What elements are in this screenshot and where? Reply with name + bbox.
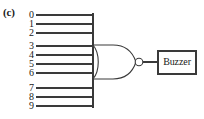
input-label-6: 6 xyxy=(22,68,34,78)
nor-gate xyxy=(93,45,136,79)
part-label: (c) xyxy=(3,7,15,18)
figure-canvas: (c) 0 1 2 3 4 5 6 7 8 9 Buzzer xyxy=(0,0,204,119)
input-lines-group xyxy=(36,15,93,106)
nor-gate-output-bubble-icon xyxy=(135,58,143,66)
nor-gate-body-path xyxy=(93,45,136,79)
input-label-2: 2 xyxy=(22,28,34,38)
buzzer-label: Buzzer xyxy=(158,56,196,67)
input-label-9: 9 xyxy=(22,101,34,111)
